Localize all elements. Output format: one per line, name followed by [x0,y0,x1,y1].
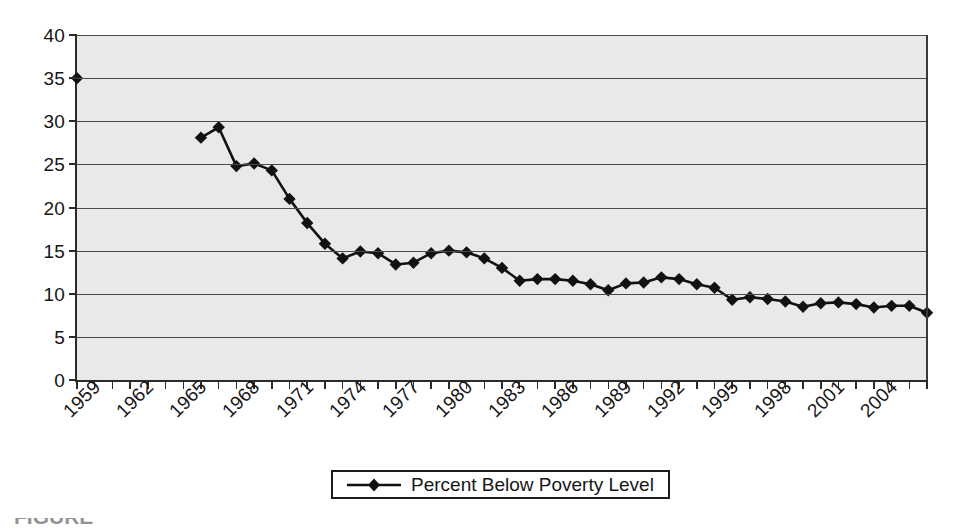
y-axis-tick-label: 20 [43,198,65,217]
y-axis-tick [69,336,77,338]
data-point-marker [832,296,844,308]
data-point-marker [372,247,384,259]
x-axis-tick-label: 1989 [591,377,635,421]
x-axis-tick [218,380,220,389]
x-axis-tick [909,380,911,389]
x-axis-tick-label: 1995 [697,377,741,421]
data-point-marker [921,307,933,319]
x-axis-tick [696,380,698,389]
x-axis-labels: 1959196219651968197119741977198019831986… [75,392,925,462]
y-axis-tick [69,207,77,209]
legend-marker-icon [347,477,401,493]
data-point-marker [460,246,472,258]
y-axis-tick [69,77,77,79]
data-point-marker [212,121,224,133]
figure-caption-text: FIGURE [14,518,93,528]
legend-entry-label: Percent Below Poverty Level [411,475,654,494]
data-point-marker [637,276,649,288]
y-axis-tick-label: 30 [43,112,65,131]
x-axis-tick-label: 1983 [485,377,529,421]
data-point-marker [425,247,437,259]
y-axis-tick [69,250,77,252]
x-axis-tick [643,380,645,389]
x-axis-tick [324,380,326,389]
x-axis-tick-label: 1986 [538,377,582,421]
gridline [77,251,927,252]
gridline [77,294,927,295]
data-point-marker [815,297,827,309]
data-point-marker [673,273,685,285]
gridline [77,337,927,338]
data-point-marker [885,300,897,312]
data-point-marker [230,160,242,172]
x-axis-tick [537,380,539,389]
gridline [77,35,927,36]
x-axis-tick-label: 1992 [644,377,688,421]
x-axis-tick [165,380,167,389]
gridline [77,121,927,122]
y-axis-tick-label: 0 [54,371,65,390]
x-axis-tick [855,380,857,389]
x-axis-tick [590,380,592,389]
y-axis-tick-label: 40 [43,26,65,45]
x-axis-tick [484,380,486,389]
gridline [77,164,927,165]
x-axis-tick [802,380,804,389]
gridline [77,208,927,209]
data-point-marker [797,300,809,312]
data-point-marker [195,131,207,143]
y-axis-tick [69,34,77,36]
x-axis-tick [271,380,273,389]
chart-legend: Percent Below Poverty Level [331,470,670,499]
x-axis-tick-label: 1962 [113,377,157,421]
x-axis-tick-label: 1965 [166,377,210,421]
x-axis-tick-label: 1971 [272,377,316,421]
data-point-marker [584,278,596,290]
y-axis-tick-label: 15 [43,241,65,260]
x-axis-tick-label: 1959 [60,377,104,421]
data-point-marker [779,295,791,307]
y-axis-tick [69,120,77,122]
y-axis-tick-label: 5 [54,327,65,346]
data-point-marker [620,277,632,289]
y-axis-tick-label: 10 [43,284,65,303]
data-point-marker [868,301,880,313]
figure-caption-clipped: FIGURE [14,518,344,529]
data-point-marker [390,258,402,270]
data-point-marker [850,298,862,310]
x-axis-tick [112,380,114,389]
x-axis-tick-label: 2001 [804,377,848,421]
poverty-rate-line-chart: 0510152025303540 19591962196519681971197… [0,0,956,529]
x-axis-tick [377,380,379,389]
x-axis-tick-label: 1980 [432,377,476,421]
data-point-marker [478,252,490,264]
data-point-marker [407,257,419,269]
data-point-marker [691,278,703,290]
y-axis-tick-label: 25 [43,155,65,174]
data-point-marker [567,275,579,287]
x-axis-tick-label: 1977 [379,377,423,421]
gridline [77,78,927,79]
x-axis-tick-label: 1974 [325,377,369,421]
data-point-marker [655,271,667,283]
data-point-marker [549,273,561,285]
x-axis-tick [926,380,928,389]
plot-area: 0510152025303540 [75,35,927,382]
y-axis-tick [69,293,77,295]
data-point-marker [903,300,915,312]
x-axis-tick [430,380,432,389]
data-point-marker [266,164,278,176]
x-axis-tick-label: 1968 [219,377,263,421]
data-point-marker [531,273,543,285]
y-axis-tick [69,163,77,165]
x-axis-tick-label: 1998 [750,377,794,421]
y-axis-tick-label: 35 [43,69,65,88]
x-axis-tick [749,380,751,389]
x-axis-tick-label: 2004 [857,377,901,421]
